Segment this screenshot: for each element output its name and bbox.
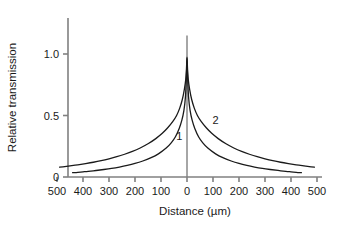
x-tick-label-9: 400 <box>282 185 300 197</box>
y-axis-title: Relative transmission <box>6 43 18 152</box>
x-tick-label-3: 200 <box>126 185 144 197</box>
x-tick-label-5: 0 <box>184 185 190 197</box>
x-tick-label-0: 500 <box>48 185 66 197</box>
y-tick-label-1: 0.5 <box>44 110 59 122</box>
y-tick-label-0: 0 <box>53 171 59 183</box>
curve-label-2: 2 <box>213 114 219 126</box>
chart-figure: 00.51.0500400300200100010020030040050012… <box>0 0 338 229</box>
y-tick-label-2: 1.0 <box>44 48 59 60</box>
x-tick-label-8: 300 <box>256 185 274 197</box>
x-tick-label-10: 500 <box>308 185 326 197</box>
x-tick-label-2: 300 <box>100 185 118 197</box>
x-tick-label-6: 100 <box>204 185 222 197</box>
x-tick-label-1: 400 <box>74 185 92 197</box>
relative-transmission-line-chart: 00.51.0500400300200100010020030040050012… <box>0 0 338 229</box>
curve-label-1: 1 <box>176 130 182 142</box>
x-axis-title: Distance (µm) <box>159 205 231 217</box>
x-tick-label-4: 100 <box>152 185 170 197</box>
x-tick-label-7: 200 <box>230 185 248 197</box>
